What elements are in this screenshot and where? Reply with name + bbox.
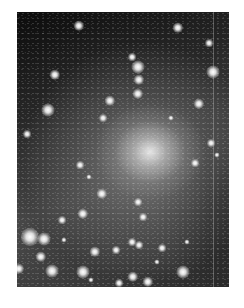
star: [207, 139, 215, 147]
star: [38, 233, 51, 246]
star: [58, 216, 66, 224]
star: [134, 198, 142, 206]
film-grain: [17, 12, 229, 287]
star: [177, 266, 190, 279]
star: [76, 161, 84, 169]
star: [99, 114, 107, 122]
star: [205, 39, 213, 47]
star: [77, 266, 90, 279]
star: [23, 130, 31, 138]
star: [135, 241, 143, 249]
scan-line: [213, 12, 214, 287]
star: [112, 246, 120, 254]
star: [132, 61, 145, 74]
star: [46, 265, 59, 278]
star: [207, 66, 220, 79]
star: [191, 159, 199, 167]
star: [42, 104, 55, 117]
star: [128, 53, 136, 61]
astronomical-photo: [17, 12, 229, 287]
star: [139, 213, 147, 221]
star: [115, 279, 123, 287]
star: [158, 244, 166, 252]
